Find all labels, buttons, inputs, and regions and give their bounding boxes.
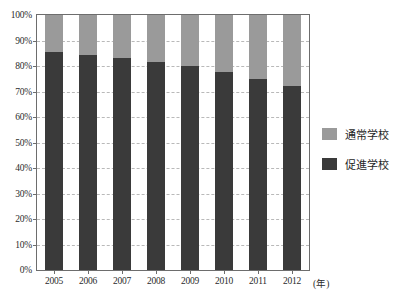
bar-segment-promotion-school [283,86,301,270]
bar-group [79,15,97,270]
bar-group [215,15,233,270]
bar-segment-promotion-school [181,66,199,270]
legend-label: 通常学校 [345,126,389,142]
bars-layer [37,15,309,270]
y-tick-label: 50% [15,138,32,148]
bar-group [113,15,131,270]
stacked-bar-chart: 0%10%20%30%40%50%60%70%80%90%100% 200520… [0,0,398,308]
bar-segment-regular-school [147,15,165,62]
bar-segment-promotion-school [215,72,233,270]
y-tick-label: 70% [15,87,32,97]
plot-area [36,14,310,271]
x-tick-mark [258,271,259,274]
x-tick-label: 2006 [79,276,97,286]
y-tick-label: 40% [15,163,32,173]
x-tick-mark [190,271,191,274]
x-axis-unit-label: (年) [313,276,329,290]
bar-group [283,15,301,270]
x-tick-label: 2008 [147,276,165,286]
bar-segment-regular-school [45,15,63,52]
bar-group [181,15,199,270]
bar-segment-regular-school [113,15,131,58]
y-tick-label: 20% [15,214,32,224]
y-tick-label: 30% [15,189,32,199]
bar-segment-regular-school [215,15,233,72]
bar-segment-regular-school [79,15,97,55]
bar-segment-promotion-school [79,55,97,270]
bar-group [249,15,267,270]
x-tick-mark [156,271,157,274]
y-tick-label: 90% [15,36,32,46]
legend-swatch-icon [322,128,337,140]
y-tick-label: 80% [15,61,32,71]
x-tick-label: 2012 [283,276,301,286]
x-axis: 20052006200720082009201020112012 [36,271,310,293]
x-tick-label: 2011 [249,276,267,286]
bar-segment-regular-school [249,15,267,79]
y-axis: 0%10%20%30%40%50%60%70%80%90%100% [0,14,36,271]
bar-segment-regular-school [283,15,301,86]
x-tick-label: 2009 [181,276,199,286]
bar-group [45,15,63,270]
bar-segment-promotion-school [249,79,267,270]
y-tick-label: 60% [15,112,32,122]
x-tick-mark [292,271,293,274]
bar-group [147,15,165,270]
bar-segment-promotion-school [113,58,131,270]
bar-segment-regular-school [181,15,199,66]
x-tick-mark [122,271,123,274]
legend-label: 促進学校 [345,156,389,172]
y-tick-label: 10% [15,240,32,250]
legend-swatch-icon [322,158,337,170]
bar-segment-promotion-school [45,52,63,270]
chart-legend: 通常学校促進学校 [322,126,396,186]
x-tick-mark [224,271,225,274]
x-tick-label: 2007 [113,276,131,286]
x-tick-label: 2010 [215,276,233,286]
x-tick-label: 2005 [45,276,63,286]
x-tick-mark [54,271,55,274]
legend-item[interactable]: 通常学校 [322,126,396,142]
y-tick-label: 0% [20,265,32,275]
y-tick-label: 100% [11,10,32,20]
bar-segment-promotion-school [147,62,165,270]
legend-item[interactable]: 促進学校 [322,156,396,172]
x-tick-mark [88,271,89,274]
